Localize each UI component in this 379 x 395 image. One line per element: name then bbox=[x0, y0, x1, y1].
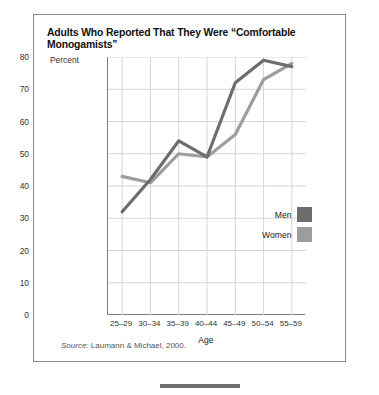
x-axis-tick: 55–59 bbox=[280, 319, 302, 328]
plot-area bbox=[107, 57, 305, 315]
source-note: Source: Laumann & Michael, 2000. bbox=[61, 341, 186, 350]
chart-legend: Men Women bbox=[262, 207, 312, 247]
legend-label-women: Women bbox=[262, 230, 291, 240]
x-axis-tick: 50–54 bbox=[251, 319, 273, 328]
y-axis-tick: 10 bbox=[20, 278, 29, 288]
y-axis-tick: 80 bbox=[20, 52, 29, 62]
legend-swatch-women bbox=[297, 227, 312, 242]
y-axis-tick: 30 bbox=[20, 213, 29, 223]
x-axis-tick: 45–49 bbox=[223, 319, 245, 328]
x-axis-tick: 30–34 bbox=[138, 319, 160, 328]
legend-swatch-men bbox=[297, 207, 312, 222]
legend-label-men: Men bbox=[275, 210, 292, 220]
y-axis-tick: 50 bbox=[20, 149, 29, 159]
y-axis-tick: 20 bbox=[20, 246, 29, 256]
plot-area-wrapper: Age 0102030405060708025–2930–3435–3940–4… bbox=[107, 57, 305, 315]
source-text: Laumann & Michael, 2000. bbox=[89, 341, 186, 350]
legend-item-men: Men bbox=[262, 207, 312, 222]
y-axis-tick: 40 bbox=[20, 181, 29, 191]
y-axis-tick: 60 bbox=[20, 117, 29, 127]
footer-rule bbox=[160, 384, 240, 388]
y-axis-title: Percent bbox=[50, 55, 79, 65]
y-axis-tick: 0 bbox=[24, 310, 29, 320]
source-prefix: Source: bbox=[61, 341, 89, 350]
legend-item-women: Women bbox=[262, 227, 312, 242]
y-axis-tick: 70 bbox=[20, 84, 29, 94]
figure-panel: Adults Who Reported That They Were “Comf… bbox=[33, 14, 346, 362]
x-axis-tick: 40–44 bbox=[195, 319, 217, 328]
chart-title: Adults Who Reported That They Were “Comf… bbox=[47, 27, 339, 51]
x-axis-tick: 25–29 bbox=[110, 319, 132, 328]
chart-canvas bbox=[108, 57, 306, 315]
x-axis-tick: 35–39 bbox=[167, 319, 189, 328]
